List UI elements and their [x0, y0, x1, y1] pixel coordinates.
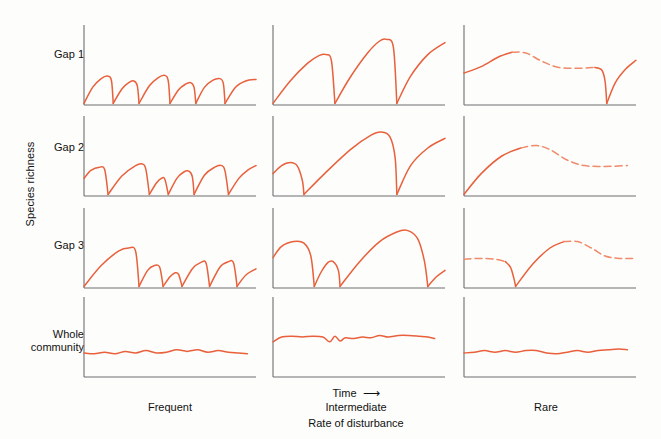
panel-axes-r2-c1	[84, 116, 256, 196]
panel-curve-gap-3-frequent	[84, 247, 256, 286]
panel-curve-gap-1-intermediate	[273, 39, 445, 104]
panel-axes-r3-c2	[273, 208, 445, 288]
panel-curve-gap-3-rare	[464, 241, 633, 286]
panel-curve-gap-3-intermediate	[273, 230, 445, 286]
panel-curve-gap-2-rare	[464, 146, 627, 195]
panel-axes-r2-c3	[464, 116, 636, 196]
plot-canvas	[0, 0, 661, 439]
panel-curve-whole-community-intermediate	[273, 335, 435, 342]
figure-root: Species richness Gap 1 Gap 2 Gap 3 Whole…	[0, 0, 661, 439]
panel-curve-whole-community-rare	[464, 349, 627, 354]
panel-curve-gap-2-intermediate	[273, 132, 445, 194]
panel-axes-r4-c3	[464, 297, 636, 377]
panel-curve-gap-2-frequent	[84, 164, 256, 195]
panel-curve-gap-1-rare	[464, 52, 636, 103]
panel-curve-gap-1-frequent	[84, 75, 256, 103]
panel-axes-r4-c1	[84, 297, 256, 377]
panel-curve-whole-community-frequent	[84, 350, 247, 354]
